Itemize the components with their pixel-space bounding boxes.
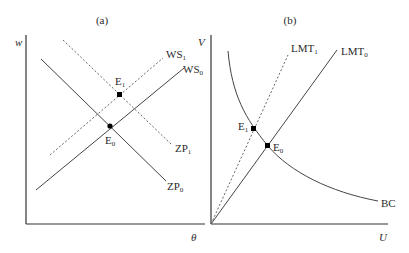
svg-text:E1: E1	[238, 120, 249, 134]
svg-text:ZP0: ZP0	[167, 180, 184, 194]
e1-label-b: E1	[238, 120, 249, 134]
e1-label-a: E1	[115, 75, 126, 89]
bc-label: BC	[381, 197, 396, 209]
e0-point-b	[265, 143, 270, 148]
svg-text:LMT1: LMT1	[291, 42, 318, 56]
panel-b-y-axis-label: V	[198, 36, 206, 48]
ws0-line	[36, 68, 184, 190]
panel-b-title: (b)	[284, 14, 297, 27]
panel-b-x-axis-label: U	[379, 231, 388, 243]
panel-a: (a) w θ E1 E0 WS1 WS0 ZP1	[15, 14, 205, 243]
svg-text:E1: E1	[115, 75, 126, 89]
svg-text:WS1: WS1	[166, 48, 187, 62]
bc-curve	[228, 51, 378, 201]
panel-a-x-axis-label: θ	[191, 231, 197, 243]
panel-a-title: (a)	[96, 14, 109, 27]
lmt1-label: LMT1	[291, 42, 318, 56]
svg-text:LMT0: LMT0	[341, 45, 368, 59]
svg-text:WS0: WS0	[183, 63, 204, 77]
lmt1-line	[211, 55, 288, 224]
ws1-label: WS1	[166, 48, 187, 62]
e1-point-a	[117, 92, 122, 97]
zp1-label: ZP1	[175, 142, 192, 156]
lmt0-line	[211, 50, 337, 224]
zp0-line	[41, 59, 166, 181]
panel-a-y-axis-label: w	[15, 36, 23, 48]
panel-b: (b) V U E1 E0 LMT1 LMT0 BC	[198, 14, 396, 243]
diagram-canvas: (a) w θ E1 E0 WS1 WS0 ZP1	[0, 0, 409, 253]
ws0-label: WS0	[183, 63, 204, 77]
e1-point-b	[251, 126, 256, 131]
lmt0-label: LMT0	[341, 45, 368, 59]
svg-text:E0: E0	[105, 134, 116, 148]
svg-text:E0: E0	[273, 141, 284, 155]
e0-label-b: E0	[273, 141, 284, 155]
svg-text:ZP1: ZP1	[175, 142, 192, 156]
e0-point-a	[107, 123, 112, 128]
e0-label-a: E0	[105, 134, 116, 148]
zp0-label: ZP0	[167, 180, 184, 194]
